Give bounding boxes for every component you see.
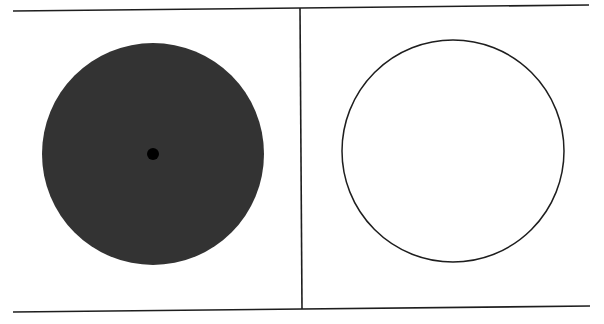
outline-circle <box>342 40 564 262</box>
diagram-canvas <box>0 0 604 324</box>
center-dot <box>147 148 159 160</box>
left-panel <box>42 43 264 265</box>
right-panel <box>342 40 564 262</box>
